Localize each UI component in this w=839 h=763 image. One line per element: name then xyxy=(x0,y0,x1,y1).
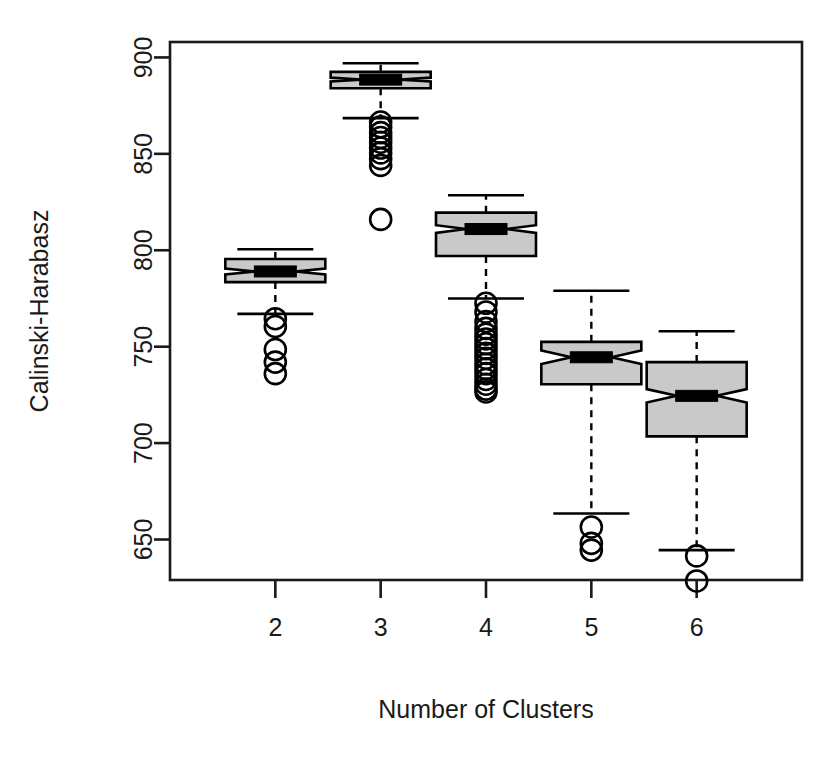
y-axis-tick-labels: 650700750800850900 xyxy=(129,37,157,561)
median-bar xyxy=(254,266,296,277)
x-tick-label: 4 xyxy=(479,613,493,641)
x-axis-title: Number of Clusters xyxy=(378,695,593,723)
boxplot-group-4 xyxy=(436,195,536,402)
x-tick-label: 6 xyxy=(690,613,704,641)
x-tick-label: 5 xyxy=(584,613,598,641)
outlier-point xyxy=(370,209,391,230)
median-bar xyxy=(465,224,507,235)
median-bar xyxy=(360,74,402,85)
y-axis-title: Calinski-Harabasz xyxy=(25,210,53,413)
y-axis-ticks xyxy=(154,57,170,539)
y-tick-label: 650 xyxy=(129,519,157,561)
outlier-point xyxy=(265,339,286,360)
x-tick-label: 2 xyxy=(268,613,282,641)
boxplot-group-5 xyxy=(541,291,641,561)
y-tick-label: 700 xyxy=(129,422,157,464)
boxplot-group-3 xyxy=(331,63,431,230)
y-tick-label: 800 xyxy=(129,229,157,271)
y-tick-label: 750 xyxy=(129,326,157,368)
median-bar xyxy=(570,352,612,363)
y-tick-label: 850 xyxy=(129,133,157,175)
boxplot-group-2 xyxy=(225,249,325,384)
outlier-point xyxy=(686,545,707,566)
box-plot-series xyxy=(225,63,746,591)
x-axis-tick-labels: 23456 xyxy=(268,613,703,641)
x-axis-ticks xyxy=(275,580,696,598)
y-tick-label: 900 xyxy=(129,37,157,79)
chart-root: 650700750800850900 23456 Calinski-Haraba… xyxy=(0,0,839,763)
boxplot-figure: 650700750800850900 23456 Calinski-Haraba… xyxy=(0,0,839,763)
boxplot-group-6 xyxy=(647,331,747,591)
x-tick-label: 3 xyxy=(374,613,388,641)
median-bar xyxy=(676,390,718,401)
